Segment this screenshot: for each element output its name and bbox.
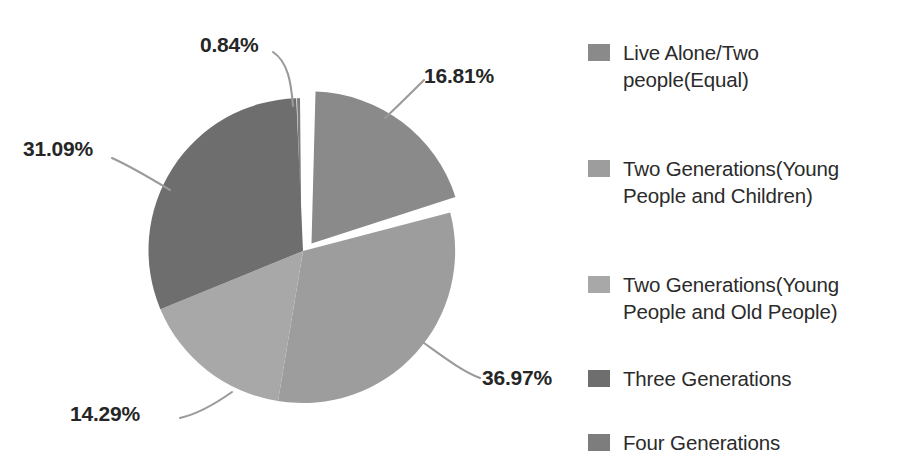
- legend-item-four-generations[interactable]: Four Generations: [588, 430, 921, 457]
- leader-line-0084: [273, 52, 293, 106]
- leader-line-3109: [112, 158, 170, 190]
- legend-item-three-generations[interactable]: Three Generations: [588, 366, 921, 393]
- chart-legend: Live Alone/Two people(Equal) Two Generat…: [588, 26, 921, 446]
- leader-line-1681: [385, 80, 424, 118]
- pie-chart: 0.84% 16.81% 36.97% 14.29% 31.09% Live A…: [0, 0, 921, 461]
- legend-swatch-icon: [588, 44, 610, 61]
- legend-item-two-gen-old[interactable]: Two Generations(Young People and Old Peo…: [588, 272, 921, 325]
- legend-label: Live Alone/Two people(Equal): [623, 40, 759, 93]
- legend-item-live-alone[interactable]: Live Alone/Two people(Equal): [588, 40, 921, 93]
- legend-label: Two Generations(Young People and Childre…: [623, 156, 839, 209]
- legend-item-two-gen-children[interactable]: Two Generations(Young People and Childre…: [588, 156, 921, 209]
- legend-label: Three Generations: [623, 366, 791, 393]
- pie-slice-two-gen-children[interactable]: [278, 213, 455, 403]
- data-label-two-gen-children: 36.97%: [482, 366, 552, 390]
- legend-swatch-icon: [588, 160, 610, 177]
- data-label-two-gen-old: 14.29%: [70, 402, 140, 426]
- leader-line-1429: [180, 392, 232, 418]
- data-label-three-generations: 31.09%: [23, 137, 93, 161]
- legend-swatch-icon: [588, 370, 610, 387]
- data-label-live-alone: 16.81%: [424, 64, 494, 88]
- legend-label: Two Generations(Young People and Old Peo…: [623, 272, 839, 325]
- legend-label: Four Generations: [623, 430, 780, 457]
- data-label-four-generations: 0.84%: [200, 33, 259, 57]
- leader-line-3697: [424, 343, 480, 378]
- legend-swatch-icon: [588, 276, 610, 293]
- pie-plot-area: 0.84% 16.81% 36.97% 14.29% 31.09%: [0, 0, 580, 461]
- legend-swatch-icon: [588, 434, 610, 451]
